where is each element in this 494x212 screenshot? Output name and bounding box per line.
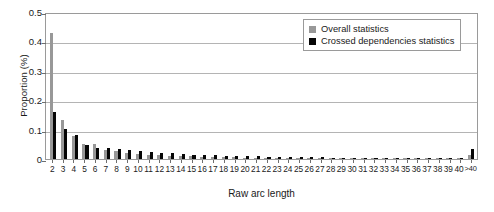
bar-crossed [171,153,174,159]
x-axis-tick-label: 32 [368,163,379,177]
x-axis-tick-label: 9 [122,163,133,177]
bar-group [48,14,59,159]
bar-group [155,14,166,159]
x-axis-tick-label: 5 [79,163,90,177]
bar-crossed [182,154,185,159]
bar-crossed [342,158,345,159]
y-axis-tick-label: 0.3 [16,67,42,77]
bar-crossed [203,155,206,159]
x-axis-tick-label: 14 [175,163,186,177]
chart-legend: Overall statisticsCrossed dependencies s… [303,19,461,51]
bar-crossed [107,148,110,159]
legend-label: Crossed dependencies statistics [321,35,454,47]
legend-swatch-icon [309,26,316,33]
bar-group [80,14,91,159]
x-axis-tick-label: 27 [315,163,326,177]
bar-crossed [449,158,452,159]
bar-group [187,14,198,159]
y-axis-tick-label: 0.5 [16,8,42,18]
bar-group [465,14,476,159]
x-axis-title: Raw arc length [45,188,478,199]
bar-crossed [192,155,195,159]
bar-crossed [118,149,121,159]
x-axis-tick-label: 16 [197,163,208,177]
bar-group [123,14,134,159]
bar-crossed [160,153,163,159]
bar-crossed [439,158,442,159]
x-axis-tick-label: 30 [347,163,358,177]
bar-crossed [64,129,67,159]
x-axis-tick-label: 2 [47,163,58,177]
bar-group [166,14,177,159]
bar-crossed [96,148,99,159]
bar-group [59,14,70,159]
x-axis-tick-label: 10 [133,163,144,177]
bar-group [69,14,80,159]
x-axis-tick-label: 4 [68,163,79,177]
bar-crossed [471,149,474,159]
y-axis-tick-label: 0.4 [16,37,42,47]
bar-chart-figure: Proportion (%) 0.50.40.30.20.10 23456789… [0,0,494,212]
bar-crossed [139,151,142,159]
bar-crossed [150,152,153,159]
bar-crossed [310,157,313,159]
bar-crossed [321,157,324,159]
x-axis-tick-label: 21 [250,163,261,177]
y-axis-tick-label: 0.1 [16,126,42,136]
bar-crossed [353,158,356,159]
x-axis-tick-label: 34 [390,163,401,177]
x-axis-tick-label: 8 [111,163,122,177]
bar-group [198,14,209,159]
bar-group [283,14,294,159]
bar-group [176,14,187,159]
bar-crossed [374,158,377,159]
bar-group [241,14,252,159]
x-axis-tick-label: 6 [90,163,101,177]
x-axis-tick-label: 33 [379,163,390,177]
y-axis-tick-labels: 0.50.40.30.20.10 [10,0,42,212]
bar-crossed [460,158,463,159]
bar-crossed [214,155,217,159]
x-axis-tick-label: 24 [282,163,293,177]
legend-item: Overall statistics [309,23,454,35]
bar-group [230,14,241,159]
bar-group [144,14,155,159]
x-axis-tick-label: 20 [240,163,251,177]
bar-group [102,14,113,159]
x-axis-tick-label: 39 [443,163,454,177]
legend-label: Overall statistics [321,23,389,35]
bar-group [209,14,220,159]
bar-crossed [225,156,228,159]
x-axis-tick-label: 40 [454,163,465,177]
bar-group [112,14,123,159]
x-axis-tick-label: 28 [325,163,336,177]
x-axis-tick-label: 25 [293,163,304,177]
bar-crossed [235,156,238,159]
bar-crossed [246,156,249,159]
bar-crossed [396,158,399,159]
bar-crossed [385,158,388,159]
x-axis-tick-label: 7 [101,163,112,177]
x-axis-tick-label: 17 [208,163,219,177]
bar-crossed [407,158,410,159]
legend-swatch-icon [309,38,316,45]
bar-group [134,14,145,159]
legend-item: Crossed dependencies statistics [309,35,454,47]
bar-group [251,14,262,159]
x-axis-tick-label: 37 [422,163,433,177]
x-axis-tick-label: 3 [58,163,69,177]
x-axis-tick-label: 35 [400,163,411,177]
x-axis-tick-label: 18 [218,163,229,177]
bar-crossed [417,158,420,159]
x-axis-tick-label: 31 [357,163,368,177]
bar-group [262,14,273,159]
bar-crossed [332,158,335,159]
x-axis-tick-label: 36 [411,163,422,177]
x-axis-tick-label: 22 [261,163,272,177]
x-axis-tick-label: >40 [464,163,477,177]
bar-crossed [278,157,281,159]
x-axis-tick-label: 19 [229,163,240,177]
bar-crossed [128,150,131,159]
x-axis-tick-label: 13 [165,163,176,177]
bar-group [219,14,230,159]
